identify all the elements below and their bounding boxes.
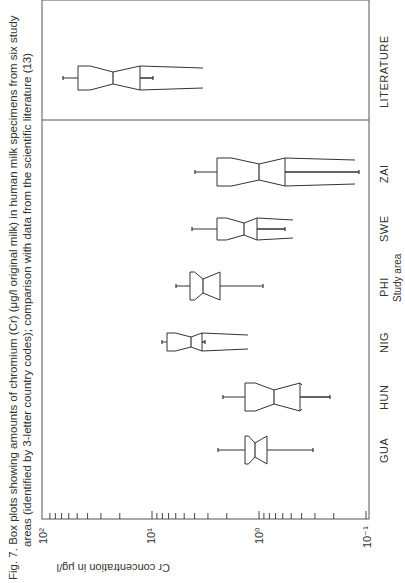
box-plot-chart <box>0 0 405 583</box>
tick-label-10: 10¹ <box>145 528 157 544</box>
notch-tail-nig <box>202 333 248 335</box>
category-label-hun: HUN <box>378 385 390 410</box>
box-swe <box>217 218 257 240</box>
notch-tail-nig <box>202 349 248 351</box>
box-hun <box>245 383 300 411</box>
notch-tail-zai <box>285 158 355 160</box>
box-zai <box>217 158 285 186</box>
box-literature <box>78 66 140 90</box>
tick-label-1: 10⁰ <box>253 528 266 544</box>
tick-label-100: 10² <box>37 528 49 544</box>
box-gua <box>245 436 267 464</box>
box-phi <box>190 272 220 300</box>
category-label-literature: LITERATURE <box>378 35 390 108</box>
category-label-swe: SWE <box>378 215 390 242</box>
category-label-zai: ZAI <box>378 164 390 183</box>
caption-line-2: areas (identified by 3-letter country co… <box>20 15 34 580</box>
category-label-nig: NIG <box>378 332 390 353</box>
notch-tail-swe <box>257 238 293 240</box>
figure: Fig. 7. Box plots showing amounts of chr… <box>0 0 405 583</box>
category-label-gua: GUA <box>378 438 390 463</box>
category-label-phi: PHI <box>378 277 390 297</box>
notch-tail-literature <box>140 66 203 68</box>
caption-line-1: Fig. 7. Box plots showing amounts of chr… <box>6 15 20 580</box>
box-nig <box>167 333 202 351</box>
figure-caption: Fig. 7. Box plots showing amounts of chr… <box>6 15 34 580</box>
value-axis-label: Cr concentration in μg/l <box>57 562 170 574</box>
notch-tail-zai <box>285 184 355 186</box>
notch-tail-swe <box>257 218 293 220</box>
tick-label-0.1: 10⁻¹ <box>361 526 374 548</box>
category-axis-label: Study area <box>392 254 403 302</box>
notch-tail-literature <box>140 88 203 90</box>
